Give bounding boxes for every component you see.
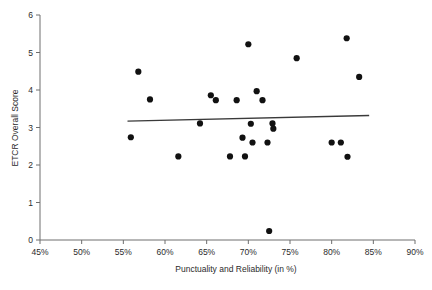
trendline xyxy=(128,116,370,122)
x-axis-title: Punctuality and Reliability (in %) xyxy=(175,264,297,274)
data-point xyxy=(227,153,233,159)
x-tick-label: 85% xyxy=(365,247,382,257)
x-tick-label: 65% xyxy=(198,247,215,257)
x-tick-label: 75% xyxy=(281,247,298,257)
trendline-layer xyxy=(128,116,370,122)
y-tick-label: 0 xyxy=(28,235,33,245)
x-tick-label: 90% xyxy=(406,247,423,257)
data-point xyxy=(329,139,335,145)
data-point xyxy=(249,139,255,145)
y-tick-label: 1 xyxy=(28,198,33,208)
data-point xyxy=(208,92,214,98)
data-point xyxy=(254,88,260,94)
y-tick-label: 4 xyxy=(28,85,33,95)
x-tick-label: 60% xyxy=(156,247,173,257)
chart-canvas: 0123456 45%50%55%60%65%70%75%80%85%90% P… xyxy=(0,0,432,290)
x-tick-label: 50% xyxy=(73,247,90,257)
data-point xyxy=(269,120,275,126)
data-point xyxy=(242,153,248,159)
data-point xyxy=(266,228,272,234)
data-point xyxy=(147,96,153,102)
y-tick-label: 6 xyxy=(28,10,33,20)
data-point xyxy=(175,153,181,159)
data-point xyxy=(344,154,350,160)
data-point xyxy=(234,97,240,103)
y-tick-label: 3 xyxy=(28,123,33,133)
data-point xyxy=(213,97,219,103)
data-point xyxy=(259,97,265,103)
data-point xyxy=(356,74,362,80)
x-tick-label: 70% xyxy=(240,247,257,257)
x-axis: 45%50%55%60%65%70%75%80%85%90% xyxy=(31,240,423,257)
data-point xyxy=(248,121,254,127)
data-point xyxy=(264,139,270,145)
scatter-chart: 0123456 45%50%55%60%65%70%75%80%85%90% P… xyxy=(0,0,432,290)
data-point xyxy=(245,41,251,47)
data-point xyxy=(294,55,300,61)
data-point xyxy=(128,134,134,140)
y-tick-label: 5 xyxy=(28,48,33,58)
data-point xyxy=(135,69,141,75)
x-tick-label: 80% xyxy=(323,247,340,257)
data-point xyxy=(338,139,344,145)
y-axis: 0123456 xyxy=(28,10,40,245)
data-point xyxy=(197,120,203,126)
data-point xyxy=(239,135,245,141)
y-axis-title: ETCR Overall Score xyxy=(10,89,20,166)
data-point xyxy=(270,126,276,132)
x-tick-label: 45% xyxy=(31,247,48,257)
x-tick-label: 55% xyxy=(115,247,132,257)
y-tick-label: 2 xyxy=(28,160,33,170)
data-points-layer xyxy=(128,35,363,234)
data-point xyxy=(344,35,350,41)
